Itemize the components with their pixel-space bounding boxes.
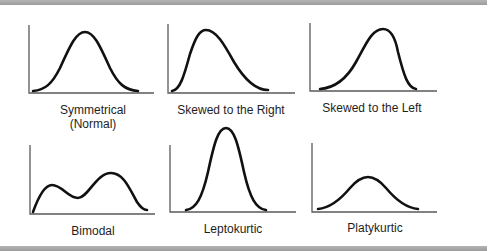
axes-leptokurtic [170, 145, 296, 212]
curve-skewed-right [172, 30, 268, 91]
label-skewed-right: Skewed to the Right [156, 103, 306, 117]
curve-bimodal [33, 173, 147, 212]
curve-leptokurtic [186, 128, 266, 210]
label-symmetrical-line1: Symmetrical [18, 103, 168, 117]
label-bimodal-text: Bimodal [18, 224, 168, 238]
label-leptokurtic: Leptokurtic [158, 222, 308, 236]
curve-platykurtic [318, 177, 418, 209]
label-symmetrical-line2: (Normal) [18, 117, 168, 131]
label-leptokurtic-text: Leptokurtic [158, 222, 308, 236]
label-symmetrical: Symmetrical (Normal) [18, 103, 168, 131]
label-platykurtic: Platykurtic [300, 221, 450, 235]
label-platykurtic-text: Platykurtic [300, 221, 450, 235]
axes-bimodal [30, 145, 155, 214]
label-skewed-right-text: Skewed to the Right [156, 103, 306, 117]
label-skewed-left-text: Skewed to the Left [297, 101, 447, 115]
label-skewed-left: Skewed to the Left [297, 101, 447, 115]
label-bimodal: Bimodal [18, 224, 168, 238]
curve-skewed-left [320, 29, 416, 89]
curve-symmetrical [33, 32, 138, 91]
